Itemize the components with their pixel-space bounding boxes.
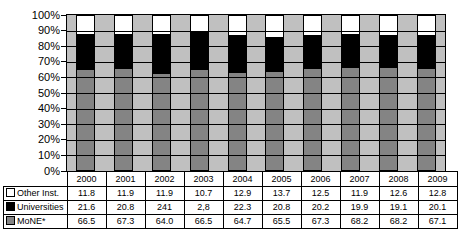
stacked-bar-2000 xyxy=(76,15,95,171)
value-cell-mone-2005: 65.5 xyxy=(262,215,301,229)
value-cell-mone-2003: 66.5 xyxy=(184,215,223,229)
value-cell-mone-2007: 68.2 xyxy=(340,215,379,229)
bar-column-2006 xyxy=(294,15,332,171)
value-cell-mone-2008: 68.2 xyxy=(379,215,418,229)
value-cell-other-inst-2003: 10.7 xyxy=(184,187,223,201)
segment-mone-2009 xyxy=(417,68,436,171)
value-cell-other-inst-2008: 12.6 xyxy=(379,187,418,201)
segment-other-inst-2005 xyxy=(265,15,284,38)
segment-universities-2003 xyxy=(190,33,209,69)
value-cell-universities-2009: 20.1 xyxy=(418,201,457,215)
year-header-2003: 2003 xyxy=(184,172,223,187)
year-header-2006: 2006 xyxy=(301,172,340,187)
segment-universities-2005 xyxy=(265,38,284,71)
segment-other-inst-2008 xyxy=(379,15,398,36)
segment-other-inst-2007 xyxy=(341,15,360,35)
year-header-2009: 2009 xyxy=(418,172,457,187)
y-axis-label: 20% xyxy=(0,133,60,146)
y-axis-label: 50% xyxy=(0,87,60,100)
value-cell-other-inst-2009: 12.8 xyxy=(418,187,457,201)
y-axis-label: 60% xyxy=(0,71,60,84)
bar-column-2000 xyxy=(67,15,105,171)
y-axis-label: 70% xyxy=(0,55,60,68)
y-axis-label: 100% xyxy=(0,9,60,22)
value-cell-universities-2006: 20.2 xyxy=(301,201,340,215)
segment-universities-2006 xyxy=(303,36,322,68)
segment-mone-2001 xyxy=(114,68,133,171)
bar-column-2009 xyxy=(407,15,445,171)
segment-universities-2001 xyxy=(114,35,133,68)
y-axis-label: 90% xyxy=(0,24,60,37)
year-header-2001: 2001 xyxy=(106,172,145,187)
value-cell-universities-2001: 20.8 xyxy=(106,201,145,215)
bar-column-2002 xyxy=(143,15,181,171)
value-cell-mone-2006: 67.3 xyxy=(301,215,340,229)
value-cell-universities-2005: 20.8 xyxy=(262,201,301,215)
table-row-universities: Universities21.620.82412,822.320.820.219… xyxy=(4,201,458,215)
y-axis-label: 80% xyxy=(0,40,60,53)
value-cell-mone-2004: 64.7 xyxy=(223,215,262,229)
segment-mone-2005 xyxy=(265,71,284,171)
year-header-2002: 2002 xyxy=(145,172,184,187)
stacked-bar-2005 xyxy=(265,15,284,171)
stacked-bar-2009 xyxy=(417,15,436,171)
stacked-bar-2007 xyxy=(341,15,360,171)
value-cell-universities-2000: 21.6 xyxy=(67,201,106,215)
table-row-other-inst: Other Inst.11.811.911.910.712.913.712.51… xyxy=(4,187,458,201)
bars-container xyxy=(67,15,445,171)
value-cell-universities-2002: 241 xyxy=(145,201,184,215)
segment-other-inst-2001 xyxy=(114,15,133,35)
stacked-bar-2008 xyxy=(379,15,398,171)
legend-cell-mone: MoNE* xyxy=(4,215,68,229)
segment-other-inst-2002 xyxy=(152,15,171,35)
legend-marker-other-inst xyxy=(6,188,15,197)
segment-other-inst-2003 xyxy=(190,15,209,33)
year-header-2005: 2005 xyxy=(262,172,301,187)
segment-mone-2003 xyxy=(190,69,209,171)
segment-mone-2008 xyxy=(379,67,398,171)
bar-column-2005 xyxy=(256,15,294,171)
year-header-2008: 2008 xyxy=(379,172,418,187)
value-cell-other-inst-2004: 12.9 xyxy=(223,187,262,201)
stacked-bar-chart: 100%90%80%70%60%50%40%30%20%10%0% 200020… xyxy=(0,0,458,239)
stacked-bar-2003 xyxy=(190,15,209,171)
bar-column-2003 xyxy=(180,15,218,171)
legend-marker-mone xyxy=(6,216,15,225)
stacked-bar-2004 xyxy=(228,15,247,171)
year-header-2000: 2000 xyxy=(67,172,106,187)
stacked-bar-2006 xyxy=(303,15,322,171)
value-cell-mone-2001: 67.3 xyxy=(106,215,145,229)
segment-mone-2002 xyxy=(152,73,171,171)
value-cell-universities-2004: 22.3 xyxy=(223,201,262,215)
value-cell-universities-2008: 19.1 xyxy=(379,201,418,215)
y-axis-label: 40% xyxy=(0,102,60,115)
segment-universities-2000 xyxy=(76,35,95,69)
table-corner-cell xyxy=(4,172,68,187)
segment-universities-2009 xyxy=(417,36,436,68)
stacked-bar-2001 xyxy=(114,15,133,171)
segment-universities-2002 xyxy=(152,35,171,73)
year-header-2004: 2004 xyxy=(223,172,262,187)
segment-other-inst-2000 xyxy=(76,15,95,35)
y-axis-label: 10% xyxy=(0,149,60,162)
value-cell-mone-2002: 64.0 xyxy=(145,215,184,229)
table-header-row: 2000200120022003200420052006200720082009 xyxy=(4,172,458,187)
bar-column-2007 xyxy=(332,15,370,171)
bar-column-2001 xyxy=(105,15,143,171)
value-cell-other-inst-2001: 11.9 xyxy=(106,187,145,201)
segment-mone-2000 xyxy=(76,69,95,171)
segment-universities-2007 xyxy=(341,35,360,67)
segment-mone-2006 xyxy=(303,68,322,171)
segment-mone-2004 xyxy=(228,72,247,171)
stacked-bar-2002 xyxy=(152,15,171,171)
value-cell-other-inst-2005: 13.7 xyxy=(262,187,301,201)
legend-label: Other Inst. xyxy=(17,188,59,198)
legend-label: Universities xyxy=(17,202,64,212)
legend-marker-universities xyxy=(6,202,15,211)
value-cell-other-inst-2000: 11.8 xyxy=(67,187,106,201)
value-cell-universities-2003: 2,8 xyxy=(184,201,223,215)
value-cell-mone-2000: 66.5 xyxy=(67,215,106,229)
data-table: 2000200120022003200420052006200720082009… xyxy=(3,171,458,229)
value-cell-other-inst-2002: 11.9 xyxy=(145,187,184,201)
value-cell-other-inst-2006: 12.5 xyxy=(301,187,340,201)
